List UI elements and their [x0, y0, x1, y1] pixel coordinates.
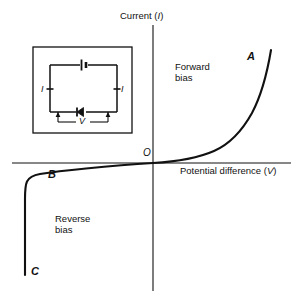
inset-voltage-label: V	[79, 116, 85, 126]
point-b-label: B	[48, 168, 56, 181]
forward-bias-curve	[153, 50, 271, 163]
point-a-label: A	[247, 50, 255, 63]
forward-bias-region-label: Forwardbias	[175, 62, 210, 84]
reverse-bias-line2: bias	[55, 224, 72, 235]
reverse-bias-line1: Reverse	[55, 213, 90, 224]
x-axis-label-text: Potential difference (	[180, 165, 267, 176]
diode-iv-characteristic-figure: Current (I) Potential difference (V) O F…	[0, 0, 298, 304]
point-c-label: C	[31, 265, 39, 278]
y-axis-label: Current (I)	[120, 11, 163, 22]
y-axis-label-close: )	[160, 10, 163, 21]
y-axis-label-text: Current (	[120, 10, 157, 21]
reverse-bias-region-label: Reversebias	[55, 214, 90, 236]
x-axis-label-close: )	[273, 165, 276, 176]
x-axis-label: Potential difference (V)	[180, 166, 276, 177]
inset-current-right-label: I	[121, 84, 124, 94]
forward-bias-line1: Forward	[175, 61, 210, 72]
inset-current-left-label: I	[41, 84, 44, 94]
origin-label: O	[143, 147, 151, 159]
forward-bias-line2: bias	[175, 72, 192, 83]
